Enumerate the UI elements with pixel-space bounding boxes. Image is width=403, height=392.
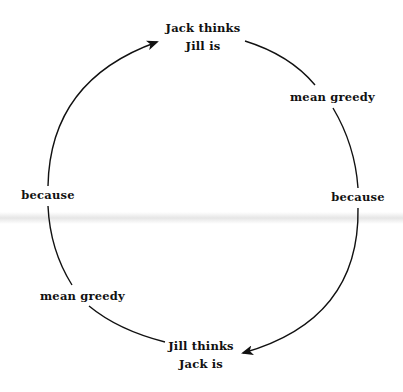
arc-right-upper — [333, 108, 358, 188]
arc-left-lower — [48, 206, 72, 285]
node-top-line2: Jill is — [153, 37, 253, 55]
node-jack-thinks: Jack thinks Jill is — [153, 19, 253, 55]
node-jill-thinks: Jill thinks Jack is — [151, 337, 251, 373]
arc-left-upper — [48, 42, 157, 186]
node-bottom-line2: Jack is — [151, 355, 251, 373]
arc-top-right — [245, 41, 315, 85]
edge-label-top-right: mean greedy — [290, 88, 370, 106]
node-bottom-line1: Jill thinks — [151, 337, 251, 355]
cycle-diagram: Jack thinks Jill is mean greedy because … — [0, 0, 403, 392]
edge-label-bottom-left: mean greedy — [40, 287, 120, 305]
arc-right-lower — [243, 208, 358, 353]
edge-label-right: because — [330, 188, 386, 206]
node-top-line1: Jack thinks — [153, 19, 253, 37]
edge-label-left: because — [20, 186, 76, 204]
